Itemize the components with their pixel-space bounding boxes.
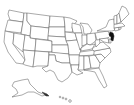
state-maine — [119, 6, 129, 22]
state-florida — [84, 68, 107, 88]
state-mississippi — [78, 56, 84, 70]
state-maryland — [99, 38, 109, 43]
state-wisconsin — [72, 23, 82, 33]
state-oregon — [5, 20, 23, 33]
us-map — [0, 0, 134, 105]
state-new-mexico — [33, 51, 49, 67]
state-delaware — [109, 39, 111, 43]
state-colorado — [35, 39, 52, 52]
state-vermont — [114, 15, 117, 24]
state-hawaii-inset — [59, 96, 71, 102]
state-south-dakota — [48, 27, 65, 37]
state-alaska-inset — [12, 79, 46, 97]
state-ohio — [87, 33, 96, 45]
state-new-york — [97, 19, 115, 31]
state-wyoming — [30, 26, 49, 40]
state-arkansas — [69, 55, 80, 65]
contiguous-us — [4, 6, 129, 88]
state-north-dakota — [49, 16, 65, 27]
